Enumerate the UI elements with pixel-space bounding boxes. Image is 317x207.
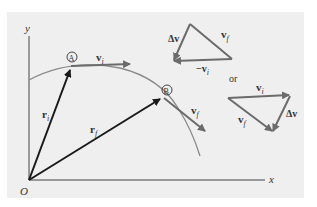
point-b-label: B [164, 87, 169, 96]
r-f-vector [29, 99, 160, 180]
upper-delta-v-label: Δv [168, 33, 179, 44]
lower-v-i-label: vi [256, 81, 264, 96]
v-i-vector [71, 64, 130, 66]
upper-v-f-label: vf [221, 28, 231, 43]
r-f-label: rf [90, 123, 99, 138]
vector-triangle-upper: Δv vf −vi [168, 24, 232, 77]
kinematics-diagram: y x O ri rf A vi B vf Δv vf −vi or vi vf… [0, 0, 317, 207]
r-i-vector [29, 70, 70, 180]
v-f-label: vf [191, 104, 201, 119]
point-a-label: A [69, 54, 75, 63]
vector-triangle-lower: vi vf Δv [228, 81, 297, 131]
lower-delta-v-label: Δv [286, 108, 297, 119]
upper-neg-v-i-label: −vi [196, 63, 209, 77]
r-i-label: ri [42, 108, 49, 123]
or-label: or [229, 73, 238, 84]
v-f-vector [164, 98, 205, 131]
x-axis-label: x [268, 173, 274, 185]
y-axis-label: y [24, 22, 30, 34]
origin-label: O [20, 185, 28, 197]
v-i-label: vi [96, 51, 104, 66]
lower-v-f-label: vf [238, 113, 248, 128]
